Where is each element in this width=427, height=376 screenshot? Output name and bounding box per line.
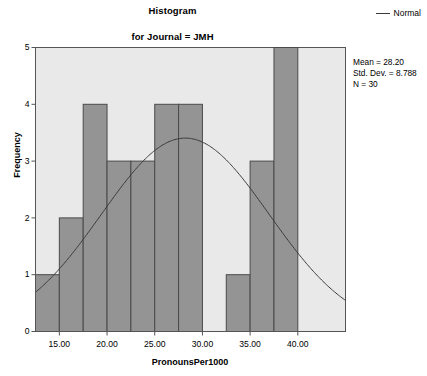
histogram-bar bbox=[274, 48, 298, 332]
plot-area bbox=[0, 0, 427, 376]
histogram-bar bbox=[226, 275, 250, 332]
histogram-bar bbox=[107, 161, 131, 331]
histogram-bar bbox=[250, 161, 274, 331]
histogram-bar bbox=[131, 161, 155, 331]
histogram-chart: Histogram for Journal = JMH Normal Mean … bbox=[0, 0, 427, 376]
histogram-bar bbox=[36, 275, 60, 332]
histogram-bar bbox=[155, 104, 179, 331]
histogram-bar bbox=[83, 104, 107, 331]
histogram-bar bbox=[59, 218, 83, 332]
